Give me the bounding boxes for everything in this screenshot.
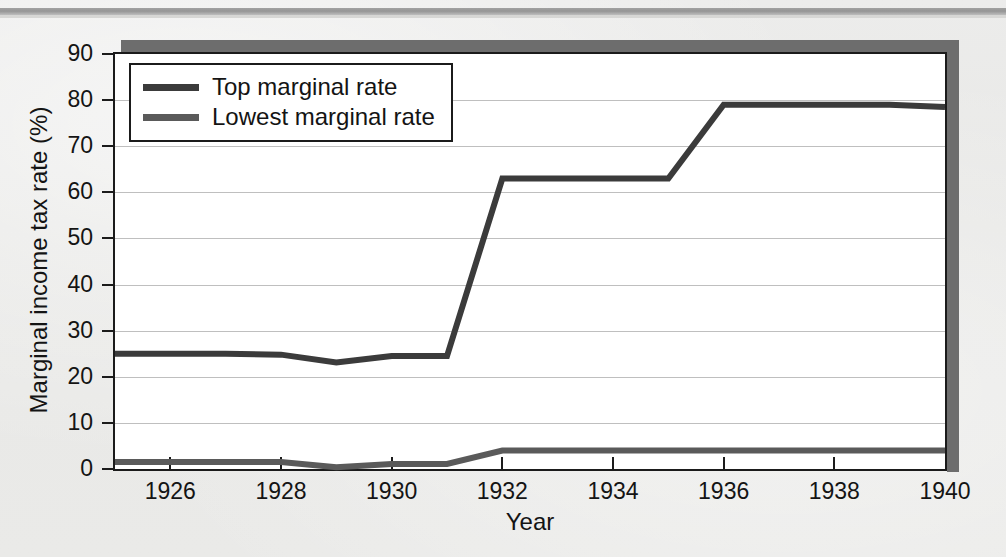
marginal-income-tax-rate-chart: 0102030405060708090 19261928193019321934…	[0, 0, 1006, 557]
legend-swatch-top-marginal-rate	[143, 84, 199, 91]
series-line-top-marginal-rate	[115, 105, 945, 363]
series-line-lowest-marginal-rate	[115, 451, 945, 468]
y-axis-label: Marginal income tax rate (%)	[25, 25, 53, 495]
legend: Top marginal rate Lowest marginal rate	[129, 63, 453, 142]
legend-label-top-marginal-rate: Top marginal rate	[212, 75, 397, 99]
legend-item-top-marginal-rate: Top marginal rate	[143, 72, 435, 102]
legend-swatch-lowest-marginal-rate	[143, 114, 199, 121]
legend-item-lowest-marginal-rate: Lowest marginal rate	[143, 102, 435, 132]
x-axis-label: Year	[113, 508, 947, 536]
legend-label-lowest-marginal-rate: Lowest marginal rate	[212, 105, 435, 129]
caption-sliver	[24, 545, 424, 557]
